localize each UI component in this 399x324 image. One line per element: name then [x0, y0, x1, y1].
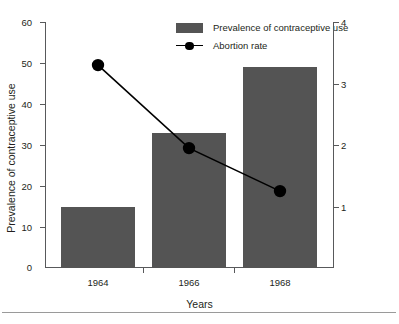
chart-figure: Prevalence of contraceptive use Abortion… — [0, 0, 399, 324]
figure-bottom-rule — [2, 312, 396, 313]
data-point-1966 — [183, 142, 195, 154]
y-axis-right-tick-label: 3 — [341, 80, 371, 90]
y-axis-left-tick-label: 60 — [0, 18, 32, 28]
x-axis-tick — [143, 268, 144, 273]
y-axis-left-title: Prevalence of contraceptive use — [5, 43, 17, 273]
x-axis-tick-label: 1966 — [159, 277, 219, 288]
y-axis-right-tick-label: 1 — [341, 203, 371, 213]
y-axis-left-tick-label: 40 — [0, 100, 32, 110]
data-point-1968 — [274, 185, 286, 197]
x-axis-title: Years — [0, 298, 399, 310]
y-axis-right-tick — [334, 145, 339, 146]
x-axis-tick-label: 1968 — [250, 277, 310, 288]
y-axis-left-tick-label: 0 — [0, 263, 32, 273]
y-axis-right-tick — [334, 22, 339, 23]
abortion-rate-line — [45, 22, 334, 268]
y-axis-right-tick-label: 4 — [341, 18, 371, 28]
y-axis-right-tick-label: 2 — [341, 141, 371, 151]
y-axis-right-tick — [334, 84, 339, 85]
line-path — [98, 65, 280, 191]
y-axis-left-tick-label: 10 — [0, 223, 32, 233]
y-axis-left-tick-label: 50 — [0, 59, 32, 69]
x-axis-tick — [234, 268, 235, 273]
plot-area: 60 50 40 30 20 10 0 4 3 2 1 1964 1966 — [45, 22, 334, 268]
y-axis-left-tick-label: 20 — [0, 182, 32, 192]
y-axis-left-tick-label: 30 — [0, 141, 32, 151]
y-axis-right-tick — [334, 207, 339, 208]
data-point-1964 — [92, 59, 104, 71]
x-axis-tick-label: 1964 — [68, 277, 128, 288]
